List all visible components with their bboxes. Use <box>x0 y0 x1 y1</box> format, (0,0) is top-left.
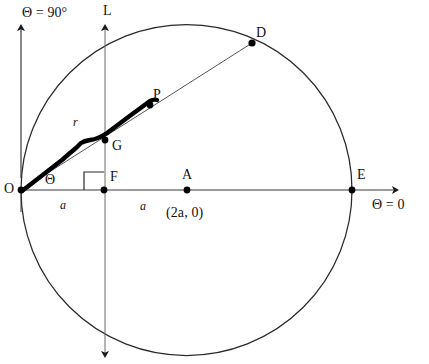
angle-theta-label: Θ <box>45 173 55 187</box>
vertical-axis-label: Θ = 90° <box>22 6 67 20</box>
radius-label-r: r <box>73 116 78 128</box>
right-angle-mark <box>84 172 104 190</box>
point-dot-D <box>248 39 255 46</box>
segment-label-a-right: a <box>140 200 146 212</box>
point-dot-E <box>349 187 356 194</box>
point-label-F: F <box>110 170 118 184</box>
point-dot-A <box>184 187 191 194</box>
segment-label-a-left: a <box>60 199 66 211</box>
point-dot-P <box>147 102 154 109</box>
radius-vector-thick-curve <box>22 100 157 191</box>
point-label-G: G <box>112 139 122 153</box>
point-label-E: E <box>357 168 366 182</box>
ray-OD <box>21 43 252 190</box>
point-label-A: A <box>182 168 192 182</box>
geometry-diagram: Θ = 90° L Θ = 0 Θ O F A E G P D r a a (2… <box>0 0 429 364</box>
point-label-O: O <box>4 182 14 196</box>
point-label-P: P <box>153 88 161 102</box>
point-dot-F <box>101 187 108 194</box>
point-dot-G <box>102 137 109 144</box>
diagram-canvas <box>0 0 429 364</box>
center-coordinates-label: (2a, 0) <box>166 206 203 220</box>
point-dot-O <box>18 187 25 194</box>
point-label-D: D <box>256 26 266 40</box>
polar-axis-label: Θ = 0 <box>372 198 405 212</box>
line-L-label: L <box>103 4 112 18</box>
